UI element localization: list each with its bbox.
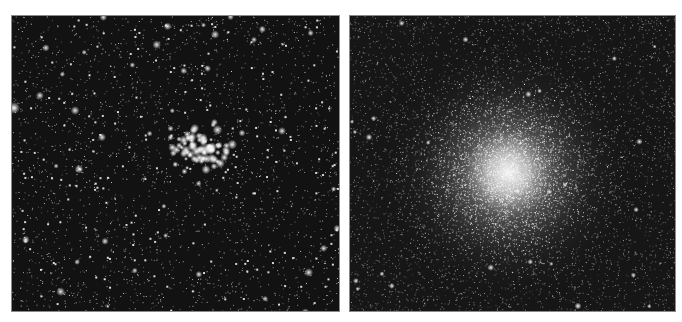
open-cluster-canvas [12, 16, 340, 312]
globular-cluster-image [349, 15, 676, 312]
globular-cluster-canvas [350, 16, 676, 312]
open-cluster-image [11, 15, 340, 312]
